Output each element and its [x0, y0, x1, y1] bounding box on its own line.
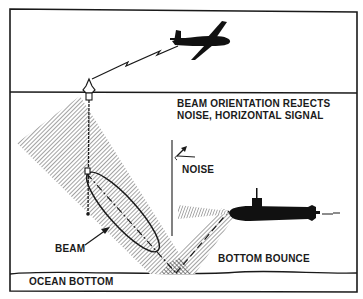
- beam-band: [17, 96, 236, 274]
- radio-link-icon: [92, 46, 178, 79]
- noise-arrow-icon: [175, 146, 195, 160]
- beam-label-arrow: [85, 227, 110, 245]
- beam-label: BEAM: [55, 243, 85, 255]
- noise-label: NOISE: [182, 164, 214, 176]
- submarine-wake: [322, 213, 340, 214]
- title-line-1: BEAM ORIENTATION REJECTS: [177, 98, 330, 110]
- sonobuoy-diagram: BEAM ORIENTATION REJECTS NOISE, HORIZONT…: [0, 0, 363, 299]
- ocean-bottom-label: OCEAN BOTTOM: [29, 276, 113, 288]
- submarine-icon: [229, 188, 320, 221]
- title-line-2: NOISE, HORIZONTAL SIGNAL: [177, 110, 324, 122]
- sonobuoy: [83, 79, 95, 100]
- sea-surface-line: [10, 92, 357, 93]
- aircraft-icon: [170, 21, 230, 60]
- bottom-bounce-label: BOTTOM BOUNCE: [218, 253, 310, 265]
